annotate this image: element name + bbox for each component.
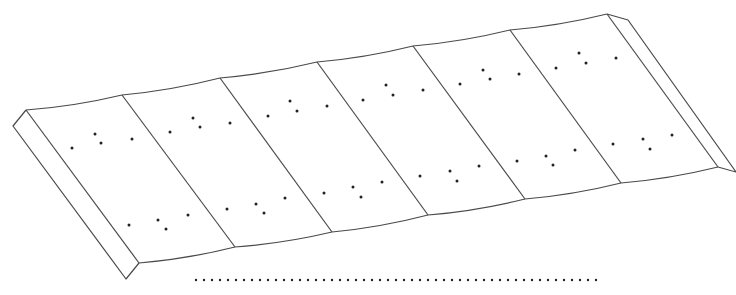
panel-divider — [317, 62, 428, 215]
perforation-dot — [131, 138, 134, 141]
reference-dot — [539, 279, 541, 281]
reference-dot — [227, 279, 229, 281]
perforation-dot — [284, 197, 287, 200]
reference-dot — [443, 279, 445, 281]
reference-dot — [571, 279, 573, 281]
perforation-dot — [585, 62, 588, 65]
reference-dot — [331, 279, 333, 281]
reference-dot — [547, 279, 549, 281]
perforation-dot — [296, 110, 299, 113]
perforation-dot — [169, 131, 172, 134]
perforation-dot — [199, 126, 202, 129]
reference-dot — [211, 279, 213, 281]
perforation-dot — [642, 138, 645, 141]
reference-dot — [435, 279, 437, 281]
reference-dot — [507, 279, 509, 281]
perforation-dot — [267, 115, 270, 118]
perforation-dot — [381, 181, 384, 184]
reference-dot — [531, 279, 533, 281]
perforation-dot — [671, 134, 674, 137]
top-edge — [26, 14, 607, 110]
reference-dot — [291, 279, 293, 281]
reference-dot — [403, 279, 405, 281]
reference-dot — [515, 279, 517, 281]
perforation-dot — [419, 175, 422, 178]
reference-dot — [235, 279, 237, 281]
panel-sheet-drawing — [0, 0, 736, 295]
perforation-dot — [289, 100, 292, 103]
perforation-dot — [323, 192, 326, 195]
perforation-dot — [71, 147, 74, 150]
perforation-dot — [449, 170, 452, 173]
reference-dot — [595, 279, 597, 281]
perforation-dot — [552, 164, 555, 167]
perforation-dot — [578, 52, 581, 55]
perforation-dot — [516, 160, 519, 163]
reference-dot — [243, 279, 245, 281]
reference-dot — [491, 279, 493, 281]
perforation-dot — [392, 94, 395, 97]
panel-divider — [122, 95, 235, 247]
dotted-reference-line — [195, 279, 597, 281]
perforation-dot — [649, 148, 652, 151]
perforation-dot — [456, 180, 459, 183]
reference-dot — [283, 279, 285, 281]
reference-dot — [323, 279, 325, 281]
reference-dot — [587, 279, 589, 281]
panel-divider — [607, 14, 718, 167]
reference-dot — [419, 279, 421, 281]
perforation-dot — [229, 122, 232, 125]
perforation-dot — [459, 83, 462, 86]
reference-dot — [555, 279, 557, 281]
reference-dot — [427, 279, 429, 281]
reference-dot — [451, 279, 453, 281]
perforation-dot — [612, 143, 615, 146]
reference-dot — [499, 279, 501, 281]
reference-dot — [371, 279, 373, 281]
perforation-dot — [360, 196, 363, 199]
reference-dot — [475, 279, 477, 281]
reference-dot — [307, 279, 309, 281]
perforation-dot — [362, 99, 365, 102]
reference-dot — [339, 279, 341, 281]
reference-dot — [387, 279, 389, 281]
reference-dot — [395, 279, 397, 281]
perforation-dot — [545, 155, 548, 158]
perforation-dot — [326, 105, 329, 108]
perforation-dot — [226, 208, 229, 211]
reference-dot — [251, 279, 253, 281]
perforation-dot — [94, 133, 97, 136]
perforation-dot — [157, 219, 160, 222]
reference-dot — [219, 279, 221, 281]
perforation-dot — [187, 214, 190, 217]
perforation-dots — [71, 52, 674, 231]
reference-dot — [195, 279, 197, 281]
reference-dot — [523, 279, 525, 281]
reference-dot — [315, 279, 317, 281]
left-flange — [13, 110, 139, 279]
perforation-dot — [422, 89, 425, 92]
reference-dot — [483, 279, 485, 281]
panel-divider — [510, 30, 621, 183]
reference-dot — [467, 279, 469, 281]
perforation-dot — [352, 186, 355, 189]
panel-divider — [26, 110, 139, 263]
reference-dot — [203, 279, 205, 281]
perforation-dot — [555, 67, 558, 70]
reference-dot — [267, 279, 269, 281]
perforation-dot — [482, 69, 485, 72]
perforation-dot — [615, 57, 618, 60]
bottom-edge — [139, 167, 718, 263]
panel-divider — [220, 78, 332, 232]
perforation-dot — [489, 78, 492, 81]
reference-dot — [355, 279, 357, 281]
perforation-dot — [100, 142, 103, 145]
reference-dot — [259, 279, 261, 281]
reference-dot — [363, 279, 365, 281]
perforation-dot — [192, 117, 195, 120]
perforation-dot — [574, 149, 577, 152]
perforation-dot — [478, 165, 481, 168]
reference-dot — [411, 279, 413, 281]
reference-dot — [347, 279, 349, 281]
perforation-dot — [165, 228, 168, 231]
